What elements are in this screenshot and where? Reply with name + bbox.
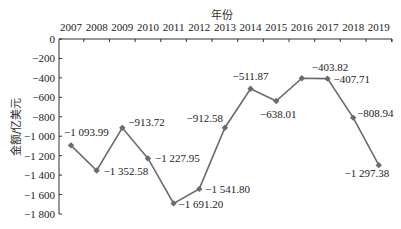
data-label: −1 352.58 — [104, 165, 149, 177]
y-axis-title: 金额/亿美元 — [9, 98, 23, 157]
x-tick-label: 2013 — [214, 21, 237, 33]
x-tick-label: 2011 — [163, 21, 185, 33]
data-label: −808.94 — [357, 107, 394, 119]
y-tick-label: −800 — [32, 111, 55, 123]
y-tick-label: −200 — [32, 52, 55, 64]
y-tick-label: −1 000 — [24, 130, 55, 142]
x-tick-label: 2009 — [111, 21, 134, 33]
data-label: −407.71 — [334, 73, 370, 85]
x-tick-label: 2019 — [368, 21, 391, 33]
x-tick-label: 2017 — [317, 21, 340, 33]
x-tick-label: 2008 — [86, 21, 109, 33]
data-labels: −1 093.99−1 352.58−913.72−1 227.95−1 691… — [64, 61, 394, 210]
data-label: −1 691.20 — [179, 198, 224, 210]
y-tick-label: −1 400 — [24, 169, 55, 181]
y-tick-label: −600 — [32, 91, 55, 103]
data-point-marker — [170, 200, 176, 206]
x-tick-label: 2018 — [342, 21, 365, 33]
data-point-marker — [196, 186, 202, 192]
x-tick-label: 2016 — [291, 21, 314, 33]
data-label: −913.72 — [128, 116, 164, 128]
x-axis-title: 年份 — [211, 8, 233, 22]
x-tick-label: 2007 — [60, 21, 83, 33]
x-tick-label: 2014 — [240, 21, 263, 33]
y-axis-ticks: 0−200−400−600−800−1 000−1 200−1 400−1 60… — [24, 33, 62, 220]
y-tick-label: 0 — [50, 33, 56, 45]
y-tick-label: −400 — [32, 72, 55, 84]
data-label: −1 227.95 — [155, 152, 200, 164]
data-label: −1 297.38 — [344, 167, 389, 179]
data-label: −1 541.80 — [205, 183, 250, 195]
y-tick-label: −1 200 — [24, 150, 55, 162]
data-label: −1 093.99 — [64, 126, 109, 138]
data-label: −511.87 — [233, 70, 270, 82]
x-tick-label: 2010 — [137, 21, 160, 33]
line-chart: 年份 金额/亿美元 200720082009201020112012201320… — [0, 0, 401, 229]
y-tick-label: −1 600 — [24, 189, 55, 201]
data-label: −912.58 — [186, 112, 223, 124]
x-tick-label: 2012 — [188, 21, 210, 33]
x-tick-label: 2015 — [265, 21, 288, 33]
y-tick-label: −1 800 — [24, 208, 55, 220]
data-label: −638.01 — [260, 108, 296, 120]
data-label: −403.82 — [312, 61, 348, 73]
